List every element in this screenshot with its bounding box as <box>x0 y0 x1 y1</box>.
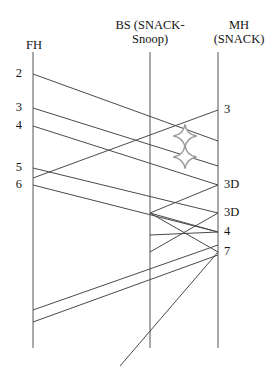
event-label-right-3: 3 <box>224 103 254 116</box>
event-label-left-5: 5 <box>0 161 22 174</box>
msg-bs-to-mh-retx-b <box>150 213 218 232</box>
sequence-diagram: FH BS (SNACK- Snoop) MH (SNACK) 2 3 4 5 … <box>0 0 276 366</box>
lifelines <box>33 52 218 348</box>
column-header-bs: BS (SNACK- Snoop) <box>98 18 202 46</box>
event-label-right-3d-first: 3D <box>224 178 254 191</box>
column-header-mh: MH (SNACK) <box>203 18 275 46</box>
event-label-left-6: 6 <box>0 178 22 191</box>
message-lines <box>33 74 218 366</box>
msg-bs-lower-up-b <box>33 255 218 322</box>
event-label-left-2: 2 <box>0 67 22 80</box>
loss-markers <box>173 124 196 168</box>
msg-fh-to-mh-pkt5 <box>33 168 218 213</box>
column-header-fh: FH <box>8 38 60 52</box>
msg-mh-to-fh-ack3 <box>33 110 218 178</box>
msg-mh-to-fh-bottom <box>120 252 218 366</box>
event-label-left-3: 3 <box>0 101 22 114</box>
event-label-right-3d-second: 3D <box>224 206 254 219</box>
msg-fh-to-bs-pkt6 <box>33 185 218 232</box>
msg-fh-to-mh-pkt2 <box>33 74 218 141</box>
event-label-left-4: 4 <box>0 119 22 132</box>
packet-loss-star-lower-icon <box>173 145 196 168</box>
msg-bs-lower-up-a <box>33 245 218 310</box>
packet-loss-star-upper-icon <box>173 124 196 147</box>
event-label-right-4: 4 <box>224 225 254 238</box>
event-label-right-7: 7 <box>224 245 254 258</box>
